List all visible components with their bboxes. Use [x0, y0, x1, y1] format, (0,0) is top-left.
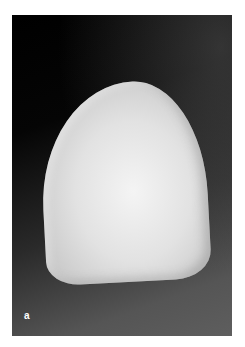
- panel-label: a: [24, 311, 30, 321]
- photo-panel: a: [12, 15, 232, 336]
- tooth-veneer-image: [37, 78, 212, 286]
